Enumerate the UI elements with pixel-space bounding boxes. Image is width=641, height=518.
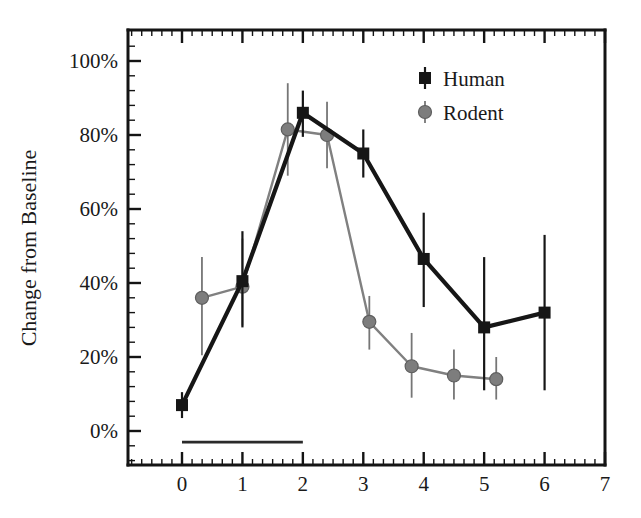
x-tick-label: 4	[418, 472, 429, 496]
x-tick-label: 2	[298, 472, 309, 496]
data-point-marker	[490, 373, 503, 386]
data-point-marker	[363, 315, 376, 328]
legend-label: Human	[443, 67, 505, 91]
chart-figure: 01234567 0%20%40%60%80%100% Change from …	[0, 0, 641, 518]
data-point-marker	[447, 369, 460, 382]
data-point-marker	[297, 107, 309, 119]
legend-marker-square	[419, 72, 431, 84]
line-chart: 01234567 0%20%40%60%80%100% Change from …	[0, 0, 641, 518]
data-point-marker	[195, 291, 208, 304]
x-tick-label: 7	[600, 472, 611, 496]
legend-label: Rodent	[443, 101, 504, 125]
y-tick-label: 100%	[69, 49, 118, 73]
data-point-marker	[418, 253, 430, 265]
y-axis-title: Change from Baseline	[16, 150, 41, 347]
y-tick-label: 20%	[80, 345, 119, 369]
data-point-marker	[176, 399, 188, 411]
data-point-marker	[539, 307, 551, 319]
y-tick-label: 0%	[90, 419, 118, 443]
legend-marker-circle	[419, 106, 432, 119]
data-point-marker	[281, 123, 294, 136]
x-tick-label: 3	[358, 472, 369, 496]
data-point-marker	[478, 321, 490, 333]
x-tick-label: 5	[479, 472, 490, 496]
y-tick-label: 60%	[80, 197, 119, 221]
y-tick-label: 40%	[80, 271, 119, 295]
data-point-marker	[405, 360, 418, 373]
x-tick-label: 0	[177, 472, 188, 496]
y-tick-label: 80%	[80, 123, 119, 147]
x-tick-label: 1	[237, 472, 248, 496]
x-tick-label: 6	[539, 472, 550, 496]
data-point-marker	[357, 148, 369, 160]
data-point-marker	[236, 275, 248, 287]
